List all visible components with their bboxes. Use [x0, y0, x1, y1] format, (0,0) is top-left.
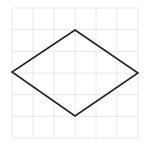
grid-lines — [12, 8, 138, 138]
diagram-canvas — [0, 0, 146, 148]
